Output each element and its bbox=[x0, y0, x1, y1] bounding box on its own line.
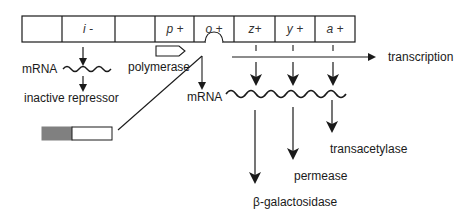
gene-label-o: o + bbox=[205, 22, 222, 36]
gene-label-y: y + bbox=[286, 22, 303, 36]
gene-label-z: z+ bbox=[247, 22, 261, 36]
transcription-label: transcription bbox=[388, 50, 453, 64]
mrna-left-wave bbox=[63, 67, 111, 72]
polymerase-label: polymerase bbox=[128, 60, 190, 74]
gene-label-p: p + bbox=[165, 22, 183, 36]
beta-galactosidase-label: β-galactosidase bbox=[253, 195, 338, 209]
transacetylase-label: transacetylase bbox=[330, 142, 408, 156]
gene-label-a: a + bbox=[326, 22, 343, 36]
inactive-repressor-bar bbox=[42, 127, 112, 140]
mrna-left-label: mRNA bbox=[22, 62, 57, 76]
mrna-right-wave bbox=[226, 91, 346, 98]
gene-box bbox=[22, 16, 355, 42]
polymerase-icon bbox=[156, 46, 185, 56]
lac-operon-diagram: i - p + o + z+ y + a + mRNA inactive rep… bbox=[0, 0, 471, 215]
mrna-right-label: mRNA bbox=[187, 90, 222, 104]
inactive-repressor-label: inactive repressor bbox=[24, 91, 119, 105]
permease-label: permease bbox=[294, 169, 348, 183]
gene-label-i: i - bbox=[83, 22, 93, 36]
